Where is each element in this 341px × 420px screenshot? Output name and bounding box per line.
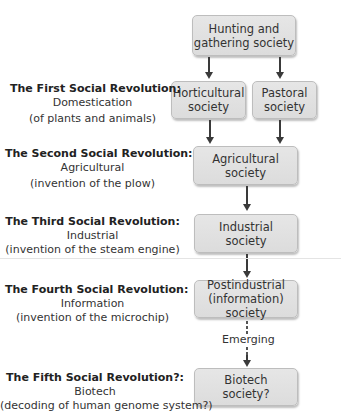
arrow-down-icon [276,72,284,79]
arrow-down-icon [205,72,213,79]
arrow-line [279,120,281,138]
revolution-title: The Second Social Revolution: [5,147,180,161]
revolution-cause: (invention of the microchip) [5,311,180,325]
revolution-cause: (invention of the plow) [5,177,180,191]
revolution-title: The Third Social Revolution: [5,215,180,229]
revolution-cause: (decoding of human genome system?) [0,399,190,413]
arrow-down-icon [243,271,251,278]
revolution-label-first: The First Social Revolution: Domesticati… [10,82,175,126]
revolution-cause: (of plants and animals) [10,112,175,126]
revolution-title: The Fifth Social Revolution?: [0,371,190,385]
node-horticultural: Horticultural society [171,81,246,119]
emerging-label: Emerging [222,333,272,346]
arrow-line [246,186,248,205]
revolution-name: Biotech [0,385,190,399]
arrow-line [246,254,248,272]
revolution-label-fourth: The Fourth Social Revolution: Informatio… [5,283,180,325]
revolution-title: The First Social Revolution: [10,82,175,96]
arrow-down-icon [243,360,251,367]
node-agricultural: Agricultural society [193,146,298,185]
revolution-name: Industrial [5,229,180,243]
revolution-title: The Fourth Social Revolution: [5,283,180,297]
revolution-name: Domestication [10,96,175,110]
revolution-label-fifth: The Fifth Social Revolution?: Biotech (d… [0,371,190,413]
divider [0,258,341,259]
node-industrial: Industrial society [194,214,298,253]
dotted-line [246,326,248,329]
revolution-label-second: The Second Social Revolution: Agricultur… [5,147,180,191]
dotted-line [246,347,248,350]
revolution-name: Agricultural [5,161,180,175]
node-pastoral: Pastoral society [252,81,317,119]
dotted-line [246,321,248,324]
arrow-down-icon [206,137,214,144]
arrow-down-icon [276,137,284,144]
node-postindustrial: Postindustrial (information) society [194,280,298,318]
arrow-down-icon [243,204,251,211]
node-hunting-gathering: Hunting and gathering society [192,15,296,56]
revolution-label-third: The Third Social Revolution: Industrial … [5,215,180,257]
revolution-name: Information [5,297,180,311]
arrow-line [209,120,211,138]
revolution-cause: (invention of the steam engine) [5,243,180,257]
